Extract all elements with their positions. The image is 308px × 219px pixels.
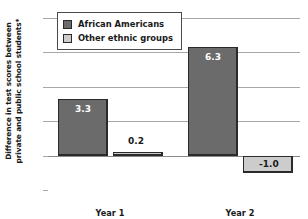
legend-swatch-icon-other-ethnic-groups bbox=[63, 34, 72, 43]
gridline-4 bbox=[48, 87, 300, 88]
bar-year2-african-americans bbox=[188, 47, 238, 155]
y-axis-title-line-1: Difference in test scores between bbox=[4, 6, 14, 176]
ytick-mark-4 bbox=[43, 87, 48, 88]
legend-item-other-ethnic-groups: Other ethnic groups bbox=[63, 31, 173, 45]
xtick-label-year-2: Year 2 bbox=[226, 208, 255, 218]
bar-year1-other-ethnic-groups bbox=[113, 152, 163, 155]
bar-value-year1-african-americans: 3.3 bbox=[75, 104, 91, 114]
legend-label-other-ethnic-groups: Other ethnic groups bbox=[78, 33, 173, 43]
xtick-label-year-1: Year 1 bbox=[96, 208, 125, 218]
bar-value-year1-other-ethnic-groups: 0.2 bbox=[128, 136, 144, 146]
bar-value-year2-other-ethnic-groups: -1.0 bbox=[259, 159, 279, 169]
chart-legend: African Americans Other ethnic groups bbox=[57, 12, 182, 50]
bar-value-year2-african-americans: 6.3 bbox=[205, 52, 221, 62]
y-axis-title: Difference in test scores between privat… bbox=[4, 6, 32, 176]
legend-item-african-americans: African Americans bbox=[63, 17, 173, 31]
bar-chart: Difference in test scores between privat… bbox=[0, 0, 308, 219]
ytick-mark-6 bbox=[43, 52, 48, 53]
gridline-6 bbox=[48, 52, 300, 53]
ytick-mark-minus2 bbox=[43, 190, 48, 191]
legend-label-african-americans: African Americans bbox=[78, 19, 164, 29]
ytick-mark-0 bbox=[43, 156, 48, 157]
ytick-mark-8 bbox=[43, 18, 48, 19]
legend-swatch-icon-african-americans bbox=[63, 20, 72, 29]
y-axis-title-line-2: private and public school students* bbox=[14, 6, 24, 176]
ytick-mark-2 bbox=[43, 121, 48, 122]
